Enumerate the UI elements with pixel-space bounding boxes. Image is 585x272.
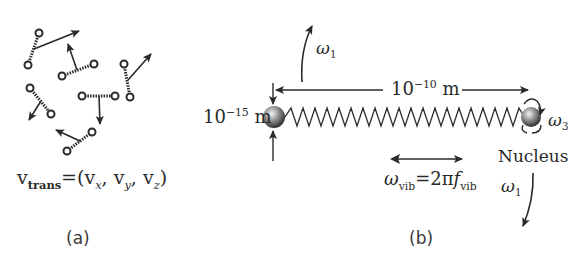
molecule-length-label: 10−10 m [391,78,460,99]
molecule-2 [59,44,98,80]
molecule-3 [121,54,152,101]
omega1-top-label: ω1 [316,38,336,60]
molecule-4 [27,85,55,121]
omega3-label: ω3 [548,110,568,132]
rotation-arrow-omega1-top [302,26,312,82]
spring [285,108,525,126]
molecule-5 [79,93,119,125]
molecule-1 [25,30,80,69]
caption-b: (b) [409,228,433,248]
molecule-6 [56,129,96,155]
omega1-bottom-label: ω1 [501,176,521,198]
caption-a: (a) [66,228,90,248]
atom-nucleus [521,107,541,127]
translation-velocity-equation: vtrans=(vx, vy, vz) [17,166,167,192]
nucleus-size-label: 10−15 m [203,106,272,127]
nucleus-label: Nucleus [498,146,569,166]
rotation-arrow-omega1-bottom [523,173,533,226]
vibration-frequency-equation: ωvib=2πfvib [384,168,477,193]
